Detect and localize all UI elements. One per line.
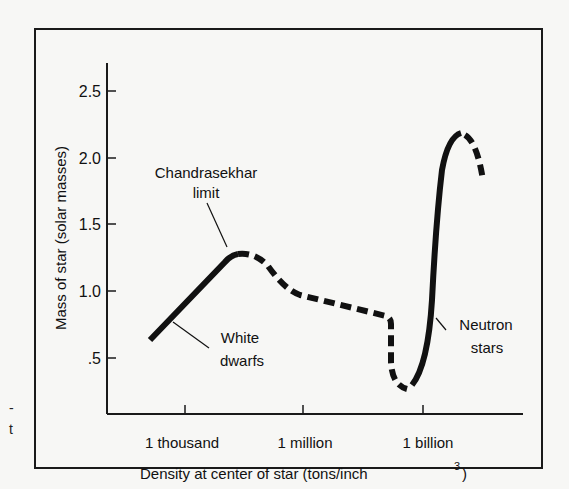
mass-density-chart: 2.5 2.0 1.5 1.0 .5 1 thousand 1 million … bbox=[0, 0, 569, 489]
x-tick-label: 1 billion bbox=[403, 434, 454, 451]
annotation-chandrasekhar: Chandrasekhar bbox=[155, 164, 258, 181]
x-axis-title-main: Density at center of star (tons/inch bbox=[140, 465, 368, 482]
annotation-neutron: Neutron bbox=[459, 316, 512, 333]
white-dwarf-curve bbox=[150, 254, 238, 340]
white-dwarfs-leader bbox=[173, 322, 209, 348]
x-tick-label: 1 million bbox=[277, 434, 332, 451]
annotation-stars: stars bbox=[471, 339, 504, 356]
y-tick-label: 2.5 bbox=[79, 83, 101, 100]
annotation-chandrasekhar-limit: limit bbox=[193, 184, 220, 201]
y-tick-labels: 2.5 2.0 1.5 1.0 .5 bbox=[79, 83, 101, 367]
axes bbox=[107, 63, 523, 414]
y-axis-title: Mass of star (solar masses) bbox=[52, 146, 69, 330]
y-tick-label: 1.0 bbox=[79, 283, 101, 300]
annotation-dwarfs: dwarfs bbox=[220, 352, 264, 369]
x-ticks bbox=[185, 405, 423, 414]
x-axis-title-superscript: 3 bbox=[454, 460, 460, 472]
y-ticks bbox=[107, 91, 116, 358]
chandrasekhar-leader bbox=[207, 203, 227, 247]
y-tick-label: .5 bbox=[88, 350, 101, 367]
y-tick-label: 1.5 bbox=[79, 216, 101, 233]
x-tick-label: 1 thousand bbox=[145, 434, 219, 451]
x-axis-title-close: ) bbox=[462, 465, 467, 482]
y-tick-label: 2.0 bbox=[79, 150, 101, 167]
annotations: Chandrasekhar limit White dwarfs Neutron… bbox=[155, 164, 513, 369]
x-axis-title-group: Density at center of star (tons/inch 3 ) bbox=[140, 460, 467, 482]
neutron-star-curve bbox=[412, 133, 461, 385]
beyond-neutron-limit-curve bbox=[465, 135, 483, 180]
annotation-white: White bbox=[221, 329, 259, 346]
x-tick-labels: 1 thousand 1 million 1 billion bbox=[145, 434, 454, 451]
neutron-stars-leader bbox=[436, 318, 446, 330]
